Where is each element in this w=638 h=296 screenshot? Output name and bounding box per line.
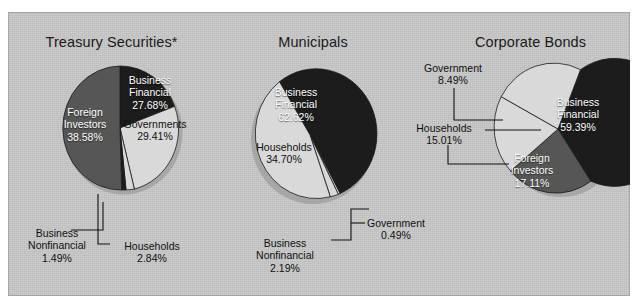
callout-label-government: Government 8.49% [413,62,493,87]
callout-label-value: 15.01% [405,134,483,146]
pie-corporate-svg [489,60,629,200]
callout-label-value: 2.84% [112,252,192,264]
pie-chart-municipals [241,66,381,206]
callout-label-households: Households 15.01% [405,122,483,147]
chart-title-treasury: Treasury Securities* [8,34,219,50]
pie-chart-treasury [56,62,188,196]
pie-municipals-svg [241,66,381,206]
chart-title-corporate: Corporate Bonds [417,34,630,50]
chart-panel-treasury: Treasury Securities* Busi [8,12,223,296]
pie-slice-foreign-investors[interactable] [63,66,122,190]
callout-label-line1: Households [112,240,192,252]
pie-treasury-svg [56,62,188,196]
callout-label-value: 8.49% [413,74,493,86]
callout-label-line1: Government [413,62,493,74]
chart-title-municipals: Municipals [213,34,413,50]
callout-label-value: 1.49% [10,252,104,264]
callout-label-line1: Business [10,227,104,239]
callout-label-line2: Nonfinancial [237,249,333,261]
callout-label-line2: Nonfinancial [10,239,104,251]
pie-chart-corporate [489,60,629,200]
callout-label-business-nonfinancial: Business Nonfinancial 2.19% [237,237,333,274]
callout-label-line1: Households [405,122,483,134]
callout-label-line1: Business [237,237,333,249]
leader-line-business-nonfinancial [71,202,103,230]
callout-label-business-nonfinancial: Business Nonfinancial 1.49% [10,227,104,264]
chart-panel-municipals: Municipals Business Financial 6 [213,12,413,296]
figure-panel: Treasury Securities* Busi [8,12,630,296]
callout-label-value: 2.19% [237,262,333,274]
chart-panel-corporate: Corporate Bonds Government 8.4 [403,12,630,296]
callout-label-households: Households 2.84% [112,240,192,265]
